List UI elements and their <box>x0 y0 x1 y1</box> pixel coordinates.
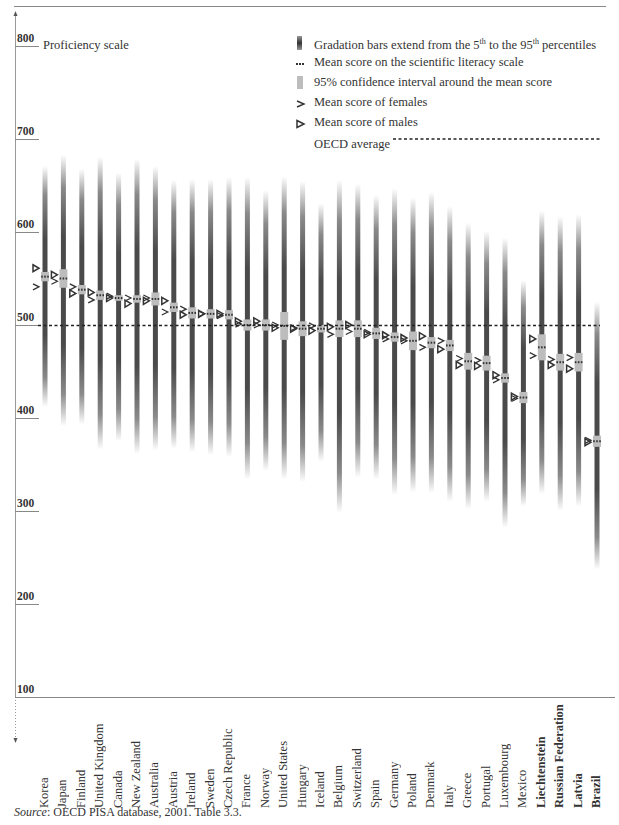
mean-score-dot <box>428 342 430 344</box>
mean-score-dot <box>213 313 215 315</box>
country-label: Finland <box>74 708 89 808</box>
mean-score-dot <box>470 360 472 362</box>
mean-score-dot <box>375 332 377 334</box>
country-label: Belgium <box>331 708 346 808</box>
female-chevron-icon <box>530 353 536 359</box>
country-label: Austria <box>166 708 181 808</box>
mean-score-dot <box>360 328 362 330</box>
y-tick-label: 200 <box>17 590 34 602</box>
mean-score-dot <box>378 332 380 334</box>
mean-score-dot <box>173 306 175 308</box>
mean-score-dot <box>121 297 123 299</box>
mean-score-dot <box>562 361 564 363</box>
mean-score-dot <box>526 397 528 399</box>
mean-score-dot <box>581 361 583 363</box>
male-triangle-icon <box>383 332 389 339</box>
country-label: Czech Republic <box>221 708 236 808</box>
legend-item-mean: Mean score on the scientific literacy sc… <box>294 52 619 72</box>
mean-score-dot <box>412 340 414 342</box>
mean-score-dot <box>599 440 601 442</box>
male-triangle-icon <box>254 318 260 325</box>
mean-score-dot <box>342 328 344 330</box>
mean-score-dot <box>63 278 65 280</box>
mean-score-dot <box>96 294 98 296</box>
mean-score-dot <box>467 360 469 362</box>
mean-score-dot <box>504 377 506 379</box>
legend-item-oecd: OECD average <box>294 134 619 154</box>
mean-score-dot <box>541 346 543 348</box>
country-label: Hungary <box>295 708 310 808</box>
source-text: : OECD PISA database, 2001. Table 3.3. <box>47 805 242 819</box>
mean-score-dot <box>464 360 466 362</box>
mean-score-dot <box>78 289 80 291</box>
country-label: Mexico <box>515 708 530 808</box>
legend-label: Gradation bars extend from the 5 <box>314 38 480 52</box>
mean-score-dot <box>538 346 540 348</box>
female-chevron-icon <box>419 344 425 350</box>
female-chevron-icon <box>70 284 76 290</box>
country-label: France <box>239 708 254 808</box>
mean-score-dot <box>501 377 503 379</box>
y-tick-label: 400 <box>17 404 34 416</box>
mean-score-dot <box>556 361 558 363</box>
legend-label: 95% confidence interval around the mean … <box>314 75 552 89</box>
mean-score-dot <box>262 324 264 326</box>
mean-score-dot <box>194 312 196 314</box>
source-note: Source: OECD PISA database, 2001. Table … <box>14 805 242 820</box>
mean-score-dot <box>434 342 436 344</box>
country-label: Spain <box>368 708 383 808</box>
country-label: United Kingdom <box>92 708 107 808</box>
female-chevron-icon <box>327 331 333 337</box>
legend-label: OECD average <box>314 137 390 151</box>
percentile-bar <box>447 206 452 502</box>
mean-score-dot <box>489 362 491 364</box>
male-triangle-icon <box>493 372 499 379</box>
percentile-bar <box>61 155 66 427</box>
mean-score-dot <box>191 312 193 314</box>
percentile-bar <box>116 172 121 441</box>
female-chevron-icon <box>296 96 306 110</box>
male-triangle-icon <box>548 361 554 368</box>
mean-score-dot <box>207 313 209 315</box>
mean-score-dot <box>302 328 304 330</box>
mean-score-dot <box>66 278 68 280</box>
y-tick-label: 300 <box>17 497 34 509</box>
mean-score-dot <box>81 289 83 291</box>
country-label: Liechtenstein <box>534 708 549 808</box>
country-label: Portugal <box>479 708 494 808</box>
y-tick-label: 800 <box>17 32 34 44</box>
mean-dots-icon <box>296 56 306 70</box>
male-triangle-icon <box>419 333 425 340</box>
mean-score-dot <box>394 336 396 338</box>
male-triangle-icon <box>296 116 306 130</box>
country-label: Latvia <box>571 708 586 808</box>
mean-score-dot <box>188 312 190 314</box>
mean-score-dot <box>139 298 141 300</box>
male-triangle-icon <box>162 297 168 304</box>
male-triangle-icon <box>180 311 186 318</box>
legend-label: Mean score of females <box>314 95 428 109</box>
mean-score-dot <box>596 440 598 442</box>
percentile-bar <box>153 166 158 451</box>
male-triangle-icon <box>125 300 131 307</box>
mean-score-dot <box>372 332 374 334</box>
mean-score-dot <box>397 336 399 338</box>
mean-score-dot <box>283 325 285 327</box>
mean-score-dot <box>228 314 230 316</box>
mean-score-dot <box>136 298 138 300</box>
mean-score-dot <box>483 362 485 364</box>
mean-score-dot <box>593 440 595 442</box>
country-label: Russian Federation <box>552 708 567 808</box>
y-tick-label: 700 <box>17 125 34 137</box>
y-tick-label: 600 <box>17 218 34 230</box>
percentile-bar <box>43 166 48 407</box>
mean-score-dot <box>210 313 212 315</box>
percentile-bar <box>135 159 140 455</box>
country-label: Iceland <box>313 708 328 808</box>
legend-label: Mean score of males <box>314 115 418 129</box>
country-label: Norway <box>258 708 273 808</box>
legend: Gradation bars extend from the 5th to th… <box>294 32 619 154</box>
country-label: New Zealand <box>129 708 144 808</box>
mean-score-dot <box>336 328 338 330</box>
country-label: Italy <box>442 708 457 808</box>
